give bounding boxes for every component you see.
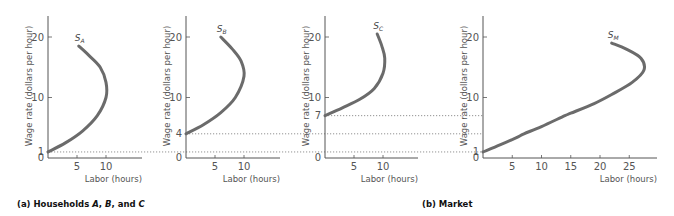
x-tick-label: 15 <box>564 161 577 172</box>
x-tick-label: 10 <box>100 161 113 172</box>
panel-household-b: 041020510Labor (hours)Wage rate (dollars… <box>162 16 280 184</box>
caption-a: A <box>92 199 99 209</box>
panel-market: 011020510152025Labor (hours)Wage rate (d… <box>459 16 657 184</box>
supply-curve <box>483 43 644 152</box>
reference-dotted-lines <box>48 116 483 152</box>
supply-curve <box>325 34 385 116</box>
y-tick-label: 0 <box>315 152 321 163</box>
x-tick-label: 5 <box>509 161 515 172</box>
y-axis-label: Wage rate (dollars per hour) <box>162 26 172 146</box>
x-axis-label: Labor (hours) <box>85 174 142 184</box>
x-tick-label: 5 <box>351 161 357 172</box>
panel-household-a: 011020510Labor (hours)Wage rate (dollars… <box>24 16 142 184</box>
x-tick-label: 10 <box>535 161 548 172</box>
y-axis-label: Wage rate (dollars per hour) <box>301 26 311 146</box>
x-tick-label: 5 <box>74 161 80 172</box>
y-tick-label: 0 <box>176 152 182 163</box>
x-tick-label: 20 <box>594 161 607 172</box>
caption-market: (b) Market <box>422 199 472 209</box>
supply-curve <box>186 37 244 134</box>
curve-label: SC <box>373 21 384 32</box>
x-axis-label: Labor (hours) <box>600 174 657 184</box>
x-tick-label: 10 <box>377 161 390 172</box>
panel-household-c: 071020510Labor (hours)Wage rate (dollars… <box>301 16 418 184</box>
x-tick-label: 10 <box>238 161 251 172</box>
labor-supply-charts: 011020510Labor (hours)Wage rate (dollars… <box>0 0 674 216</box>
x-axis-label: Labor (hours) <box>361 174 418 184</box>
curve-label: SB <box>217 24 227 35</box>
y-tick-label: 1 <box>473 146 479 157</box>
caption-households: (a) Households A, B, and C <box>17 199 145 209</box>
x-tick-label: 5 <box>212 161 218 172</box>
y-tick-label: 4 <box>176 128 182 139</box>
caption-c: C <box>139 199 145 209</box>
x-tick-label: 25 <box>623 161 636 172</box>
curve-label: SA <box>75 33 85 44</box>
y-tick-label: 1 <box>38 146 44 157</box>
caption-sep: , and <box>111 199 138 209</box>
y-axis-label: Wage rate (dollars per hour) <box>459 26 469 146</box>
caption-households-prefix: (a) Households <box>17 199 92 209</box>
curve-label: SM <box>608 30 620 41</box>
y-axis-label: Wage rate (dollars per hour) <box>24 26 34 146</box>
x-axis-label: Labor (hours) <box>223 174 280 184</box>
supply-curve <box>48 46 107 152</box>
y-tick-label: 7 <box>315 110 321 121</box>
